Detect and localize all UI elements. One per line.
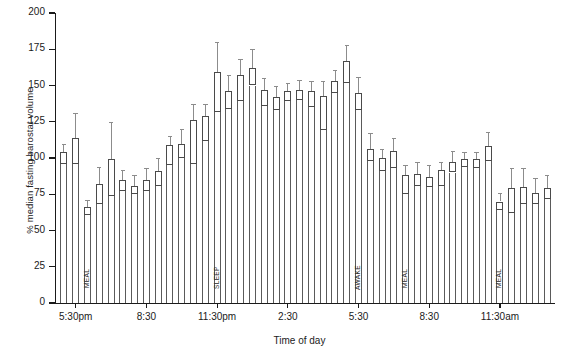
whisker-line <box>393 138 394 151</box>
bar-group[interactable] <box>343 0 350 357</box>
bar-group[interactable] <box>273 0 280 357</box>
whisker-line <box>500 193 501 202</box>
bar-column <box>414 186 421 303</box>
whisker-cap <box>356 77 360 78</box>
bar-group[interactable] <box>143 0 150 357</box>
whisker-line <box>276 86 277 98</box>
bar-group[interactable] <box>544 0 551 357</box>
bar-column <box>532 204 539 303</box>
bar-group[interactable] <box>367 0 374 357</box>
whisker-cap <box>144 168 148 169</box>
bar-group[interactable] <box>520 0 527 357</box>
bar-group[interactable]: SLEEP <box>214 0 221 357</box>
whisker-line <box>358 77 359 93</box>
bar-group[interactable]: AWAKE <box>355 0 362 357</box>
whisker-cap <box>62 144 66 145</box>
whisker-cap <box>286 83 290 84</box>
bar-group[interactable] <box>96 0 103 357</box>
bar-group[interactable] <box>284 0 291 357</box>
bar-group[interactable] <box>473 0 480 357</box>
bar-group[interactable] <box>438 0 445 357</box>
bar-group[interactable] <box>296 0 303 357</box>
whisker-line <box>134 175 135 185</box>
bar-group[interactable] <box>237 0 244 357</box>
bar-group[interactable] <box>261 0 268 357</box>
bar-group[interactable] <box>166 0 173 357</box>
whisker-line <box>122 170 123 180</box>
bar-group[interactable] <box>249 0 256 357</box>
whisker-cap <box>156 158 160 159</box>
bar-box-iqr <box>320 96 327 131</box>
bar-box-iqr <box>438 170 445 186</box>
bar-group[interactable] <box>331 0 338 357</box>
bar-group[interactable] <box>119 0 126 357</box>
bar-group[interactable] <box>426 0 433 357</box>
bar-column <box>390 168 397 303</box>
whisker-line <box>511 168 512 188</box>
whisker-cap <box>545 175 549 176</box>
bar-group[interactable] <box>178 0 185 357</box>
bar-column <box>485 161 492 303</box>
whisker-line <box>240 59 241 75</box>
bar-group[interactable] <box>532 0 539 357</box>
whisker-cap <box>392 138 396 139</box>
bar-group[interactable]: MEAL <box>496 0 503 357</box>
bar-box-iqr <box>379 158 386 171</box>
bar-group[interactable] <box>379 0 386 357</box>
whisker-cap <box>380 149 384 150</box>
bar-column <box>237 101 244 303</box>
bar-box-iqr <box>60 152 67 164</box>
bar-group[interactable]: MEAL <box>402 0 409 357</box>
bar-group[interactable] <box>320 0 327 357</box>
bar-column <box>202 141 209 303</box>
bar-box-iqr <box>520 187 527 204</box>
bar-box-iqr <box>355 93 362 110</box>
bar-box-iqr <box>214 72 221 111</box>
bar-group[interactable] <box>390 0 397 357</box>
bar-column <box>426 187 433 303</box>
whisker-cap <box>227 75 231 76</box>
bar-group[interactable] <box>485 0 492 357</box>
whisker-cap <box>215 42 219 43</box>
bar-column <box>367 161 374 303</box>
whisker-line <box>181 129 182 144</box>
bar-column <box>108 196 115 303</box>
whisker-cap <box>403 165 407 166</box>
x-axis-title: Time of day <box>0 335 561 346</box>
whisker-cap <box>262 78 266 79</box>
whisker-cap <box>333 70 337 71</box>
bar-column <box>261 106 268 303</box>
bar-group[interactable] <box>225 0 232 357</box>
bar-column <box>190 164 197 303</box>
bar-group[interactable] <box>60 0 67 357</box>
whisker-line <box>346 45 347 61</box>
bar-group[interactable] <box>508 0 515 357</box>
bar-box-iqr <box>143 180 150 192</box>
whisker-line <box>535 178 536 193</box>
bar-group[interactable] <box>190 0 197 357</box>
bar-group[interactable] <box>155 0 162 357</box>
whisker-cap <box>121 170 125 171</box>
whisker-line <box>158 158 159 171</box>
bar-box-iqr <box>473 159 480 168</box>
whisker-cap <box>427 165 431 166</box>
whisker-line <box>193 104 194 120</box>
whisker-line <box>323 81 324 96</box>
bar-group[interactable] <box>414 0 421 357</box>
bar-group[interactable] <box>202 0 209 357</box>
bar-group[interactable]: MEAL <box>84 0 91 357</box>
whisker-line <box>429 165 430 177</box>
bar-box-iqr <box>544 188 551 198</box>
bar-group[interactable] <box>108 0 115 357</box>
bar-group[interactable] <box>131 0 138 357</box>
whisker-line <box>452 151 453 163</box>
plot-area: MEALSLEEPAWAKEMEALMEAL <box>0 0 561 357</box>
bar-group[interactable] <box>72 0 79 357</box>
bar-group[interactable] <box>308 0 315 357</box>
bar-group[interactable] <box>449 0 456 357</box>
bar-group[interactable] <box>461 0 468 357</box>
whisker-cap <box>180 129 184 130</box>
whisker-line <box>370 133 371 149</box>
whisker-cap <box>510 168 514 169</box>
whisker-line <box>264 78 265 90</box>
